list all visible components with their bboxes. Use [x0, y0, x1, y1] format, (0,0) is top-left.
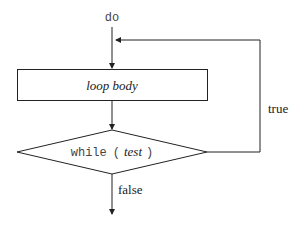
- true-label: true: [268, 101, 288, 116]
- flowchart-canvas: do loop body while(test) true false: [0, 0, 308, 229]
- condition-test: test: [124, 144, 142, 159]
- condition-label: while(test): [71, 144, 153, 160]
- start-label: do: [105, 11, 119, 25]
- condition-keyword: while: [71, 146, 107, 160]
- false-label: false: [118, 182, 143, 197]
- loop-body-label: loop body: [86, 78, 138, 93]
